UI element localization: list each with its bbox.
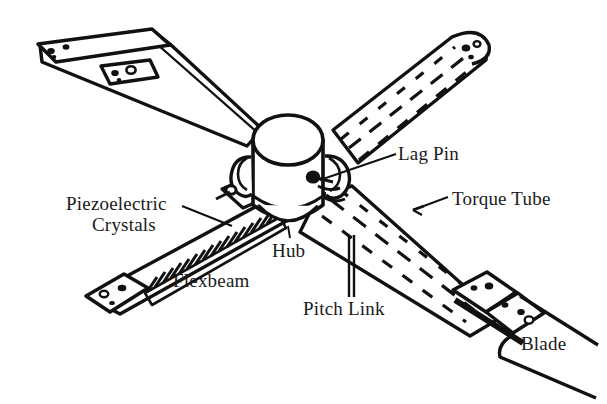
label-pitch-link: Pitch Link (303, 298, 385, 319)
upper-left-arm (38, 29, 262, 146)
figure-canvas: Piezoelectric Crystals Flexbeam Hub Lag … (0, 0, 607, 404)
label-lag-pin: Lag Pin (398, 143, 459, 164)
left-hub-bracket (216, 157, 252, 199)
label-flexbeam: Flexbeam (173, 270, 250, 291)
leader-hub (288, 226, 290, 238)
label-hub: Hub (272, 240, 305, 261)
lower-right-arm-torque-tube (300, 186, 598, 398)
leader-piezoelectric (182, 206, 232, 226)
label-piezoelectric-crystals: Piezoelectric Crystals (66, 193, 167, 235)
label-torque-tube: Torque Tube (452, 188, 551, 209)
label-piezoelectric-line2: Crystals (66, 214, 167, 235)
label-piezoelectric-line1: Piezoelectric (66, 193, 167, 214)
label-blade: Blade (521, 333, 566, 354)
hub-cylinder (253, 115, 323, 221)
